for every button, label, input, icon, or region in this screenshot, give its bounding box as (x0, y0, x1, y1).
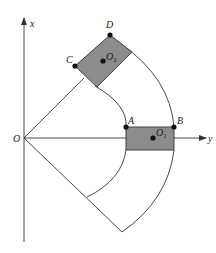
y-axis-label: y (207, 133, 213, 144)
point-a-label: A (127, 115, 135, 126)
lower-radial-line (24, 138, 122, 232)
point-b-label: B (177, 115, 183, 126)
point-d-label: D (105, 19, 114, 30)
center-o2-dot (100, 58, 105, 63)
curved-track-diagram: x y O A B C D O1 O2 (0, 0, 216, 253)
inner-arc (87, 86, 126, 197)
point-c-dot (72, 63, 77, 68)
diagram-canvas: x y O A B C D O1 O2 (0, 0, 216, 253)
point-d-dot (107, 32, 112, 37)
center-o1-dot (150, 135, 155, 140)
point-c-label: C (66, 54, 73, 65)
lower-block (126, 127, 174, 150)
origin-label: O (13, 133, 20, 144)
point-b-dot (171, 124, 176, 129)
x-axis-label: x (29, 18, 35, 29)
upper-radial-line (24, 78, 84, 138)
